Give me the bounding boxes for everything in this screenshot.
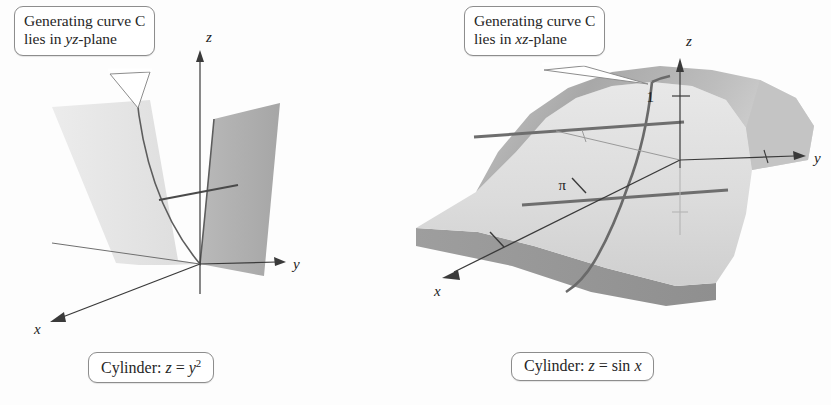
- caption-cylinder-equation: Cylinder: z = y2: [88, 352, 214, 383]
- panel-parabolic-cylinder: z y x Generating curve C lies in yz-plan…: [0, 0, 415, 405]
- x-axis-label: x: [433, 283, 441, 299]
- callout-plane-name: yz: [65, 30, 78, 47]
- y-axis-label: y: [812, 150, 821, 166]
- z-axis-label: z: [685, 33, 692, 49]
- caption-var-y: y: [189, 359, 196, 376]
- caption-cylinder-equation: Cylinder: z = sin x: [511, 352, 654, 381]
- y-axis-label: y: [291, 256, 300, 272]
- caption-var-x: x: [634, 357, 641, 374]
- callout-plane-name: xz: [515, 30, 528, 47]
- z-tick-one-label: 1: [647, 89, 655, 105]
- z-axis-label: z: [205, 29, 212, 45]
- callout-line-1: Generating curve C: [474, 12, 595, 29]
- parabolic-cylinder-graphic: z y x: [0, 0, 415, 405]
- panel-sine-cylinder: z 1 y x π Gener: [416, 0, 831, 405]
- caption-prefix: Cylinder:: [101, 359, 165, 376]
- callout-line-2-prefix: lies in: [24, 30, 65, 47]
- caption-prefix: Cylinder:: [524, 357, 588, 374]
- caption-equals: = sin: [595, 357, 635, 374]
- x-axis-arrowhead: [50, 312, 66, 322]
- x-tick-pi-label: π: [558, 177, 566, 193]
- z-axis-arrowhead: [676, 58, 684, 72]
- figure-root: z y x Generating curve C lies in yz-plan…: [0, 0, 831, 405]
- caption-equals: =: [172, 359, 189, 376]
- callout-generating-curve: Generating curve C lies in yz-plane: [14, 6, 155, 56]
- callout-generating-curve: Generating curve C lies in xz-plane: [464, 6, 605, 56]
- x-axis-label: x: [33, 321, 41, 337]
- surface-sheet-far: [52, 100, 200, 265]
- y-axis-arrowhead: [274, 257, 286, 266]
- sine-cylinder-graphic: z 1 y x π: [416, 0, 831, 405]
- callout-line-2-suffix: -plane: [78, 30, 117, 47]
- callout-line-2-suffix: -plane: [528, 30, 567, 47]
- caption-exponent: 2: [196, 357, 201, 369]
- z-axis-arrowhead: [196, 50, 204, 62]
- callout-line-2-prefix: lies in: [474, 30, 515, 47]
- callout-line-1: Generating curve C: [24, 12, 145, 29]
- x-axis-line: [60, 264, 200, 318]
- x-axis-arrowhead: [442, 270, 460, 280]
